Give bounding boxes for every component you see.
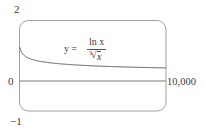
plot-area <box>0 0 205 131</box>
y-tick-label-top: 2 <box>14 4 20 15</box>
y-tick-label-zero: 0 <box>8 76 14 87</box>
equation-lhs: y = <box>64 44 77 54</box>
x-tick-label-right: 10,000 <box>167 76 196 87</box>
radical-sign-icon: √ <box>91 50 97 60</box>
y-tick-label-bottom: −1 <box>10 116 22 127</box>
equation-denominator: x <box>97 51 101 62</box>
equation-numerator: ln x <box>89 37 104 47</box>
